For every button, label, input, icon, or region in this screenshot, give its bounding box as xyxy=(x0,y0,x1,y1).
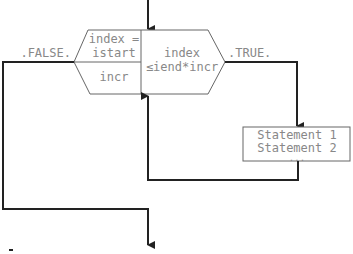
true-branch-label: .TRUE. xyxy=(228,46,271,60)
false-branch-label: .FALSE. xyxy=(20,46,71,60)
condition-line1: index xyxy=(164,46,200,60)
condition-line2: ≤iend*incr xyxy=(146,60,218,74)
artifact-mark xyxy=(9,249,13,251)
increment-label: incr xyxy=(100,70,129,84)
flowchart-canvas: index = istart incr index ≤iend*incr .FA… xyxy=(0,0,353,254)
init-label-line1: index = xyxy=(89,32,140,46)
init-label-line2: istart xyxy=(92,46,135,60)
true-branch-path xyxy=(225,62,297,126)
body-statement-1: Statement 1 xyxy=(257,128,336,142)
